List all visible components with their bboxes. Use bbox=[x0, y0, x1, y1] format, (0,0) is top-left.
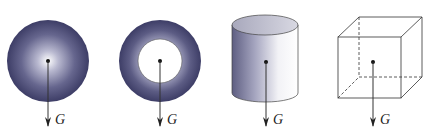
cube-figure: G bbox=[338, 17, 422, 127]
cylinder-top bbox=[232, 15, 298, 35]
diagram-canvas: G G G G bbox=[0, 0, 431, 138]
gravity-label: G bbox=[167, 112, 177, 127]
gravity-label: G bbox=[273, 112, 283, 127]
gravity-label: G bbox=[380, 112, 390, 127]
ring-figure: G bbox=[119, 20, 201, 127]
cube-top-edges bbox=[338, 17, 422, 37]
hidden-edge bbox=[338, 77, 359, 98]
solid-sphere-figure: G bbox=[7, 20, 89, 127]
cylinder-figure: G bbox=[232, 15, 298, 127]
gravity-label: G bbox=[55, 112, 65, 127]
cube-front-face bbox=[338, 37, 401, 98]
cube-side-edges bbox=[401, 17, 422, 98]
